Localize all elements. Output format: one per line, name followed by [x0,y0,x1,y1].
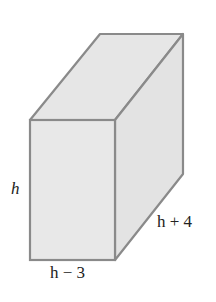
width-label: h − 3 [50,263,85,283]
depth-label: h + 4 [157,212,192,232]
prism-diagram [0,0,216,302]
front-face [30,120,115,260]
height-label: h [11,179,20,199]
